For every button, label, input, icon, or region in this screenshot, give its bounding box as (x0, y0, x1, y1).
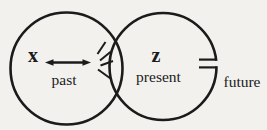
double-arrow-icon (45, 59, 91, 66)
circle-edge-gap (204, 61, 223, 66)
diagram-canvas: x past z present future (0, 0, 267, 130)
future-label: future (223, 73, 260, 90)
time-venn-diagram: x past z present future (0, 0, 267, 130)
past-circle (11, 13, 123, 125)
present-label: present (136, 68, 181, 85)
x-variable-label: x (28, 44, 38, 66)
z-variable-label: z (152, 44, 161, 66)
past-label: past (52, 71, 78, 88)
